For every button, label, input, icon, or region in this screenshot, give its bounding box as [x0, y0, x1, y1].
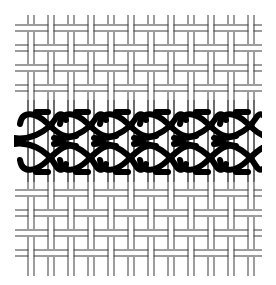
woven-canvas-with-stitch-band — [0, 0, 276, 285]
stitch-band — [14, 112, 276, 172]
stitch-diagram — [0, 0, 276, 285]
